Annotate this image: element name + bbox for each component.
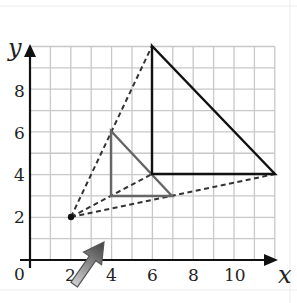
y-tick-4: 4 bbox=[14, 165, 25, 185]
y-axis-label: y bbox=[7, 34, 22, 62]
x-tick-8: 8 bbox=[188, 265, 199, 285]
center-point bbox=[68, 214, 74, 220]
object-triangle bbox=[111, 131, 172, 196]
x-axis-arrowhead-icon bbox=[264, 254, 278, 266]
x-tick-6: 6 bbox=[147, 265, 158, 285]
y-tick-2: 2 bbox=[14, 207, 25, 227]
axes bbox=[20, 55, 268, 268]
x-tick-4: 4 bbox=[106, 265, 117, 285]
origin-label: 0 bbox=[14, 264, 25, 284]
y-tick-8: 8 bbox=[14, 81, 25, 101]
y-tick-6: 6 bbox=[14, 123, 25, 143]
x-axis-label: x bbox=[278, 261, 292, 289]
diagram-canvas: y x 0 2 4 6 8 10 2 4 6 8 bbox=[0, 0, 297, 303]
x-tick-10: 10 bbox=[224, 265, 246, 285]
